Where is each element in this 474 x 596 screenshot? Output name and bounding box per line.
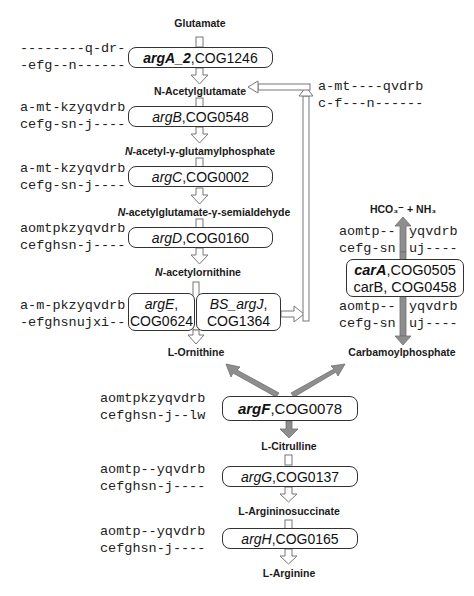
profile-argH: aomtp--yqvdrbcefghsn-j---- [100,523,205,557]
arrow-argF-down [280,421,298,438]
gene-name: carA [354,262,386,278]
arrow-argA-down [191,68,208,84]
label-rest: -acetylglutamate-γ-semialdehyde [125,206,290,218]
cog-id: COG1364 [197,313,280,330]
italic-prefix: N [155,266,163,278]
profile-line-2: cefghsn-j--lw [100,407,205,424]
profile-line-2: cefghsn-j---- [100,540,205,557]
profile-line-1: aomtpkzyqvdrb [100,390,205,407]
profile-line-2: cefg-sn [339,240,396,257]
profile-line-1: --------q-dr- [20,40,125,57]
profile-line-2: cefghsn-j---- [20,237,125,254]
profile-line-2: cefg-sn-j---- [20,177,125,194]
cog-id: COG0002 [186,169,249,185]
profile-line-1: yqvdrb [409,298,458,315]
metabolite-n-acetylornithine: N-acetylornithine [155,266,241,278]
profile-carA-left: aomtp--cefg-sn [339,223,396,257]
arrow-argF-to-ornithine [226,364,279,397]
profile-carA-right: yqvdrbuj---- [409,223,458,257]
profile-line-1: yqvdrb [409,223,458,240]
cog-id: COG0458 [391,279,456,295]
enzyme-box-argH: argH , COG0165 [222,528,358,549]
argJ-line1: BS_argJ, [197,296,280,313]
gene-name: argC [152,169,182,185]
metabolite-l-citrulline: L-Citrulline [261,440,316,452]
metabolite-n-acetyl-glutamylphosphate: N-acetyl-γ-glutamylphosphate [125,145,275,157]
profile-argG: aomtp--yqvdrbcefghsn-j---- [100,461,205,495]
metabolite-l-arginine: L-Arginine [263,567,316,579]
arrow-argD-down [191,248,208,264]
metabolite-n-acetylglutamate: N-Acetylglutamate [154,85,246,97]
argE-line1: argE, [129,296,194,313]
profile-line-1: a-m-pkzyqvdrb [20,297,125,314]
profile-line-1: aomtp--yqvdrb [100,461,205,478]
profile-line-1: a-mt-kzyqvdrb [20,99,125,116]
profile-argJ: a-mt----qvdrbc-f---n------ [318,78,423,112]
gene-name: argG [241,469,272,485]
metabolite-l-ornithine: L-Ornithine [168,346,225,358]
profile-line-1: aomtp--yqvdrb [100,523,205,540]
enzyme-box-argF: argF,COG0078 [222,396,358,421]
gene-name: BS_argJ [210,296,264,312]
cog-id: COG0137 [276,469,339,485]
profile-carB-right: yqvdrbuj---- [409,298,458,332]
cog-id: COG0624 [129,313,194,330]
gene-name: argH [241,531,271,547]
enzyme-box-argG: argG , COG0137 [222,466,358,487]
cog-id: COG0160 [186,230,249,246]
enzyme-box-argD: argD , COG0160 [128,227,273,248]
metabolite-carbamoylphosphate: Carbamoylphosphate [348,346,455,358]
italic-prefix: N [118,206,126,218]
metabolite-n-acetylglutamate-semialdehyde: N-acetylglutamate-γ-semialdehyde [118,206,291,218]
metabolite-glutamate: Glutamate [174,17,225,29]
carB-line: carB, COG0458 [347,279,463,296]
carA-line: carA,COG0505 [347,262,463,279]
profile-argC: a-mt-kzyqvdrbcefg-sn-j---- [20,160,125,194]
cog-id: COG0505 [390,262,455,278]
arrow-citrulline-to-argG [285,455,292,465]
profile-line-2: cefg-sn-j---- [20,116,125,133]
profile-line-1: a-mt-kzyqvdrb [20,160,125,177]
arrow-argB-down [191,127,208,143]
arrow-argC-down [191,188,208,204]
cog-id: COG0078 [275,400,343,417]
profile-argB: a-mt-kzyqvdrbcefg-sn-j---- [20,99,125,133]
profile-line-1: aomtp-- [339,223,396,240]
cog-id: COG0165 [276,531,339,547]
metabolite-l-argininosuccinate: L-Argininosuccinate [238,505,340,517]
cog-id: COG1246 [195,50,258,66]
italic-prefix: N [125,145,133,157]
separator: , [174,296,178,312]
profile-line-2: cefghsn-j---- [100,478,205,495]
profile-argA: --------q-dr--efg--n------ [20,40,125,74]
enzyme-box-argA: argA_2,COG1246 [128,47,273,68]
profile-line-2: -efg--n------ [20,57,125,74]
profile-line-1: aomtpkzyqvdrb [20,220,125,237]
profile-line-1: a-mt----qvdrb [318,78,423,95]
profile-argD: aomtpkzyqvdrbcefghsn-j---- [20,220,125,254]
enzyme-box-argJ: BS_argJ, COG1364 [196,293,281,331]
cog-id: COG0548 [186,109,249,125]
label-rest: -acetyl-γ-glutamylphosphate [133,145,275,157]
arrow-glutamate-to-argA [196,37,203,47]
gene-name: argD [152,230,182,246]
gene-name: argE [145,296,175,312]
label-rest: -acetylornithine [163,266,241,278]
gene-name: argB [152,109,182,125]
profile-line-2: -efghsnujxi-- [20,314,125,331]
profile-line-2: uj---- [409,240,458,257]
enzyme-box-argB: argB , COG0548 [128,106,273,127]
profile-carB-left: aomtp--cefg-sn [339,298,396,332]
profile-line-2: c-f---n------ [318,95,423,112]
profile-argE: a-m-pkzyqvdrb-efghsnujxi-- [20,297,125,331]
arrow-argF-to-carbamoylphosphate [291,364,345,397]
enzyme-box-argC: argC , COG0002 [128,166,273,187]
arrow-argEJ-down [188,330,204,344]
enzyme-box-carAB: carA,COG0505 carB, COG0458 [346,259,464,297]
metabolite-hco3-nh3: HCO₃⁻ + NH₃ [370,203,436,215]
profile-line-2: cefg-sn [339,315,396,332]
gene-name: argA_2 [143,50,190,66]
gene-name: argF [238,400,271,417]
separator: , [263,296,267,312]
arrow-argG-down [280,487,297,502]
